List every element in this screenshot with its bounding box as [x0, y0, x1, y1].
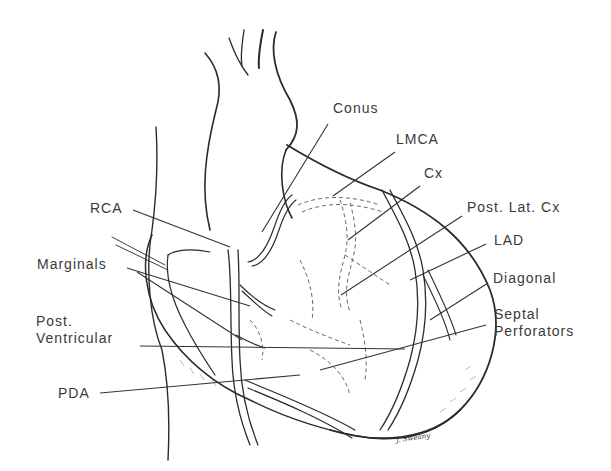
label-marginals: Marginals: [37, 256, 107, 273]
label-diagonal: Diagonal: [493, 270, 556, 287]
label-septal-perforators: Septal Perforators: [494, 306, 574, 340]
label-rca: RCA: [90, 200, 123, 217]
label-lmca: LMCA: [396, 131, 439, 148]
label-lad: LAD: [494, 232, 524, 249]
coronary-artery-diagram: Conus LMCA Cx Post. Lat. Cx LAD Diagonal…: [0, 0, 611, 471]
label-pda: PDA: [58, 385, 90, 402]
label-cx: Cx: [424, 165, 443, 182]
label-conus: Conus: [333, 100, 378, 117]
label-post-ventricular: Post. Ventricular: [36, 313, 113, 347]
label-post-lat-cx: Post. Lat. Cx: [467, 199, 560, 216]
